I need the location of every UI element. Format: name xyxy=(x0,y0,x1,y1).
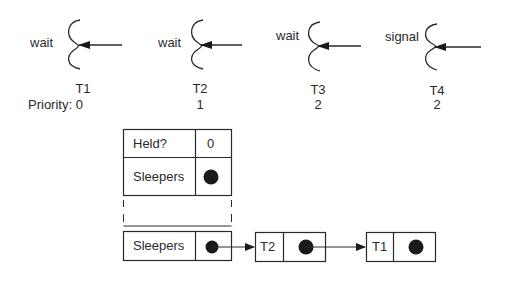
thread-t1-squiggle-icon xyxy=(69,20,122,69)
thread-t4-squiggle-icon xyxy=(426,24,481,70)
held-value: 0 xyxy=(207,137,214,151)
thread-t4-id: T4 xyxy=(429,84,444,98)
held-label: Held? xyxy=(133,137,167,151)
thread-t3-priority: 2 xyxy=(314,98,321,112)
thread-t4-priority: 2 xyxy=(433,98,440,112)
thread-t4-operation: signal xyxy=(385,30,419,44)
sleepers-pointer-dot xyxy=(204,170,219,185)
thread-t2-squiggle-icon xyxy=(192,20,242,69)
thread-t1-id: T1 xyxy=(75,82,90,96)
thread-t2-id: T2 xyxy=(192,82,207,96)
thread-t1-priority: Priority: 0 xyxy=(28,98,83,112)
thread-t2-operation: wait xyxy=(158,36,181,50)
thread-t3-id: T3 xyxy=(310,83,325,97)
thread-t3-squiggle-icon xyxy=(309,22,361,71)
thread-t1-operation: wait xyxy=(30,36,53,50)
dashed-continuation xyxy=(124,200,232,226)
sleepers-label: Sleepers xyxy=(133,170,184,184)
thread-t2-priority: 1 xyxy=(196,98,203,112)
queue-node-t1-label: T1 xyxy=(372,240,387,254)
thread-t3-operation: wait xyxy=(276,29,299,43)
diagram-canvas xyxy=(0,0,506,283)
sleepers-head-label: Sleepers xyxy=(133,239,184,253)
queue-node-t2-label: T2 xyxy=(260,240,275,254)
